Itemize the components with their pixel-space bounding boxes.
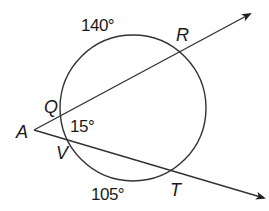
secant-AR xyxy=(34,14,250,130)
angle-a-measure: 15° xyxy=(70,118,94,135)
diagram-canvas xyxy=(0,0,269,211)
point-r-label: R xyxy=(176,26,189,44)
geometry-diagram: 140° R Q A 15° V 105° T xyxy=(0,0,269,211)
arc-qr-measure: 140° xyxy=(81,17,114,34)
point-t-label: T xyxy=(170,181,181,199)
point-a-label: A xyxy=(16,123,28,141)
arc-vt-measure: 105° xyxy=(91,186,124,203)
point-q-label: Q xyxy=(44,98,58,116)
point-v-label: V xyxy=(56,144,68,162)
secant-AT xyxy=(34,130,264,198)
